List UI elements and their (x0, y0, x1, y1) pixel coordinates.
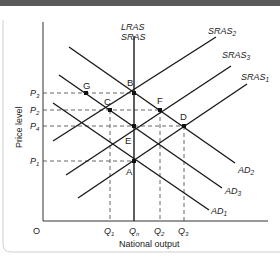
lras-label: LRAS (121, 22, 145, 32)
q3-label: Q3 (178, 226, 189, 237)
point-c-marker (108, 108, 112, 112)
ad2-curve (69, 47, 235, 163)
ad3-label: AD3 (224, 186, 242, 197)
origin-label: O (33, 226, 40, 236)
point-d-marker (182, 124, 186, 128)
curve-labels: SRAS2 SRAS3 SRAS1 AD2 AD3 AD1 (208, 26, 270, 217)
point-a-marker (132, 159, 136, 163)
qn-label: Qn (129, 226, 140, 237)
output-tick-labels: Q1 Qn Q2 Q3 (104, 226, 189, 237)
point-e-label: E (125, 135, 131, 146)
ad2-label: AD2 (237, 165, 255, 176)
point-c-label: C (104, 96, 111, 107)
x-axis-title: National output (119, 239, 180, 249)
p4-label: P4 (30, 121, 40, 132)
point-f-label: F (157, 95, 163, 106)
point-g-marker (84, 91, 88, 95)
p1-label: P1 (30, 156, 39, 167)
ad1-label: AD1 (210, 206, 228, 217)
sras1-label: SRAS1 (241, 72, 270, 83)
ad3-curve (59, 75, 222, 188)
lras-sras-label: LRAS SRAS (121, 22, 146, 42)
q1-label: Q1 (104, 226, 114, 237)
q2-label: Q2 (154, 226, 165, 237)
curves (53, 36, 247, 221)
p3-label: P3 (30, 88, 40, 99)
point-b-label: B (127, 77, 133, 88)
sras-label: SRAS (121, 32, 146, 42)
price-tick-labels: P3 P2 P4 P1 (30, 88, 40, 167)
point-a-label: A (126, 166, 133, 177)
p2-label: P2 (30, 105, 40, 116)
point-g-label: G (83, 80, 90, 91)
point-f-marker (158, 108, 162, 112)
sras3-curve (66, 66, 231, 175)
point-e-marker (132, 124, 136, 128)
point-b-marker (132, 91, 136, 95)
as-ad-diagram: G B C F E D A LRAS SRAS SRAS2 SRAS3 SRAS… (0, 6, 280, 257)
y-axis-title: Price level (14, 106, 24, 148)
sras2-label: SRAS2 (208, 26, 237, 37)
sras3-label: SRAS3 (222, 50, 251, 61)
point-d-label: D (180, 111, 187, 122)
